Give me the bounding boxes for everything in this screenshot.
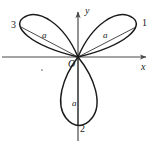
y-axis-label: y xyxy=(85,6,89,16)
rose-curve-canvas xyxy=(0,0,156,146)
petal-upper-left xyxy=(20,15,78,57)
petal-label-2: 2 xyxy=(80,124,85,134)
petal-bottom xyxy=(61,57,97,126)
scan-artifact-speck xyxy=(41,69,43,71)
petal-label-1: 1 xyxy=(142,18,147,28)
petal-label-3: 3 xyxy=(11,20,16,30)
origin-label: O xyxy=(68,59,75,69)
radius-label-petal-2: a xyxy=(72,99,77,108)
radius-label-petal-3: a xyxy=(42,31,47,40)
rose-curve-figure: 3 1 2 a a a y x O xyxy=(0,0,156,146)
radius-label-petal-1: a xyxy=(103,31,108,40)
x-axis-label: x xyxy=(141,62,145,72)
